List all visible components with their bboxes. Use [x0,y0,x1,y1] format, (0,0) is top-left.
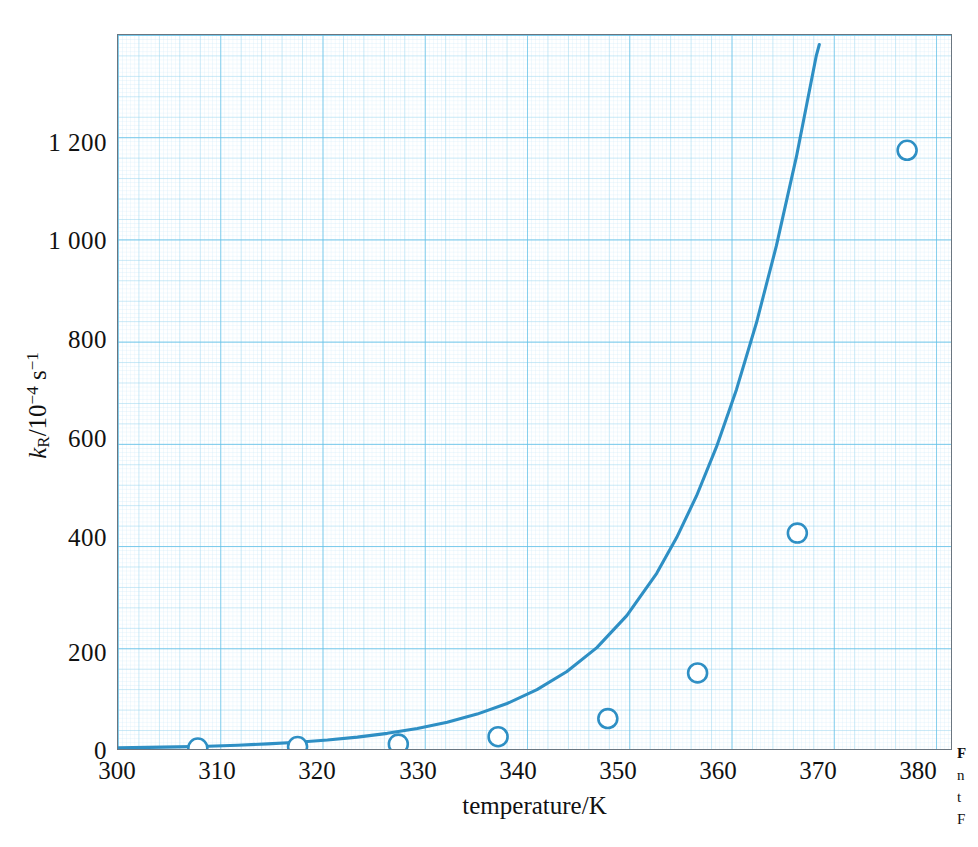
data-point [288,737,307,749]
x-tick-label: 340 [478,757,558,785]
y-axis-unit: s [24,370,51,386]
x-tick-label: 360 [678,757,758,785]
y-axis-ticks: 1 200 1 000 800 600 400 200 0 [0,0,107,760]
y-tick-label: 1 200 [7,130,107,155]
x-tick-label: 330 [378,757,458,785]
y-axis-symbol: k [24,448,51,459]
y-tick-label: 200 [7,640,107,665]
x-tick-label: 370 [778,757,858,785]
fitted-curve [118,44,819,747]
x-tick-label: 380 [878,757,958,785]
data-point [788,524,807,543]
data-point [489,727,508,746]
y-axis-exponent-2: −1 [23,352,42,370]
y-axis-exponent-1: −4 [23,386,42,404]
x-tick-label: 300 [77,757,157,785]
x-tick-label: 320 [277,757,357,785]
caption-line: F [957,742,978,764]
y-axis-symbol-subscript: R [34,436,53,447]
figure-container: 1 200 1 000 800 600 400 200 0 300 310 32… [0,0,978,847]
data-markers [188,141,916,749]
y-axis-title: kR/10−4 s−1 [23,276,54,536]
plot-area [117,34,952,750]
x-tick-label: 350 [578,757,658,785]
caption-line: F [957,808,978,830]
y-tick-label: 1 000 [7,228,107,253]
data-point [389,735,408,749]
caption-line: t [957,786,978,808]
y-axis-divider: /10 [24,404,51,436]
caption-line: n [957,764,978,786]
x-tick-label: 310 [177,757,257,785]
data-point [598,709,617,728]
data-point [898,141,917,160]
data-curve-layer [118,35,951,749]
x-axis-title: temperature/K [117,792,952,820]
data-point [688,663,707,682]
figure-caption-clipped: F n t F [957,742,978,847]
data-point [188,739,207,749]
